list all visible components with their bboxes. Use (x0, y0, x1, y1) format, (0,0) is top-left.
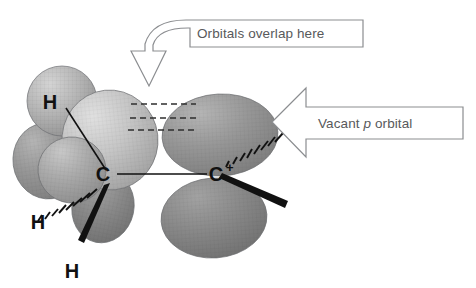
callout-vacant-p-text-after: orbital (371, 116, 412, 131)
atom-label-c-left: C (96, 163, 110, 185)
atom-label-h-bottom: H (65, 260, 79, 282)
atom-label-c-right: C (209, 163, 223, 185)
orbital-diagram-figure: H H H C C + Orbitals overlap here Vacant… (0, 0, 476, 288)
callout-vacant-p-label: Vacant p orbital (318, 116, 412, 131)
atom-label-h-left: H (31, 211, 45, 233)
atom-charge-c-right: + (226, 160, 234, 175)
diagram-canvas: H H H C C + Orbitals overlap here Vacant… (0, 0, 476, 288)
callout-overlap-label: Orbitals overlap here (197, 26, 324, 41)
atom-label-h-top: H (43, 91, 57, 113)
callout-vacant-p-text-before: Vacant (318, 116, 363, 131)
